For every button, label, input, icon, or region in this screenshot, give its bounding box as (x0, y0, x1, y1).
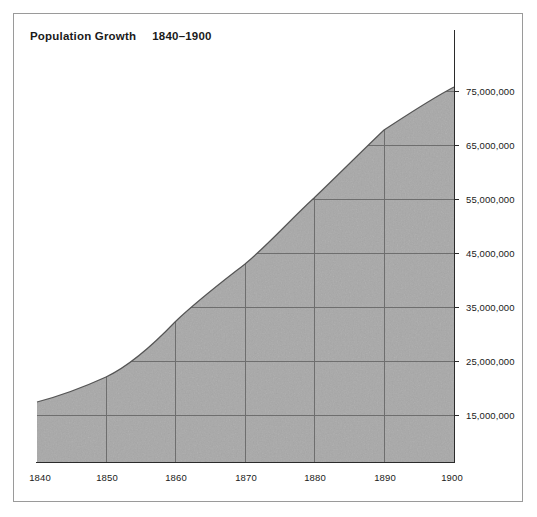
ytick-label-75000000: 75,000,000 (466, 86, 515, 97)
xtick-label-1850: 1850 (96, 472, 118, 483)
ytick-label-65000000: 65,000,000 (466, 140, 515, 151)
ytick-label-55000000: 55,000,000 (466, 194, 515, 205)
xtick-label-1890: 1890 (374, 472, 396, 483)
ytick-label-45000000: 45,000,000 (466, 248, 515, 259)
chart-figure: Population Growth 1840–1900 Population G… (0, 0, 537, 517)
xtick-label-1880: 1880 (304, 472, 326, 483)
plot-area (0, 0, 537, 517)
xtick-label-1900: 1900 (441, 472, 463, 483)
ytick-label-35000000: 35,000,000 (466, 302, 515, 313)
ytick-label-25000000: 25,000,000 (466, 356, 515, 367)
xtick-label-1870: 1870 (235, 472, 257, 483)
xtick-label-1860: 1860 (165, 472, 187, 483)
ytick-label-15000000: 15,000,000 (466, 410, 515, 421)
xtick-label-1840: 1840 (29, 472, 51, 483)
